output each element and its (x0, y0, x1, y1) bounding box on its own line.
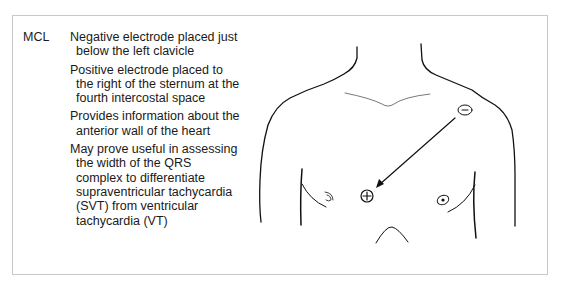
point-negative-electrode: Negative electrode placed just below the… (70, 30, 240, 59)
point-anterior-wall: Provides information about the anterior … (70, 109, 240, 138)
lead-label: MCL (23, 30, 49, 44)
point-qrs-width: May prove useful in assessing the width … (70, 142, 240, 228)
description-list: Negative electrode placed just below the… (70, 30, 240, 232)
point-positive-electrode: Positive electrode placed to the right o… (70, 63, 240, 106)
